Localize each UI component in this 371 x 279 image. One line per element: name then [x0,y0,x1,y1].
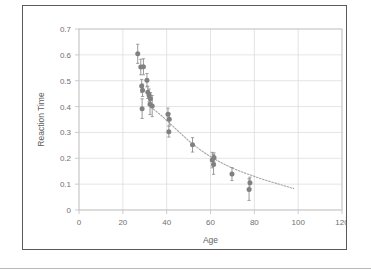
y-tick-label-5: 0.5 [60,77,72,86]
data-point-2 [141,64,146,69]
y-tick-label-6: 0.6 [60,51,72,60]
x-axis-title: Age [203,235,218,245]
page-bottom-rule [0,268,371,269]
y-tick-label-0: 0 [67,206,72,215]
x-tick-label-2: 40 [162,218,171,227]
x-tick-label-1: 20 [118,218,127,227]
data-point-0 [135,51,140,56]
y-tick-label-3: 0.3 [60,128,72,137]
y-tick-label-7: 0.7 [60,25,72,34]
trendline-path [154,109,294,188]
data-point-4 [140,88,145,93]
data-point-17 [212,155,217,160]
y-tick-label-1: 0.1 [60,180,72,189]
data-point-5 [140,106,145,111]
y-tick-label-4: 0.4 [60,103,72,112]
data-point-11 [150,104,155,109]
x-tick-label-6: 120 [335,218,346,227]
data-point-20 [247,180,252,185]
x-tick-label-4: 80 [250,218,259,227]
chart-gridlines [79,29,342,210]
reaction-time-vs-age-chart: 020406080100120 00.10.20.30.40.50.60.7 A… [23,6,346,249]
chart-y-tick-labels: 00.10.20.30.40.50.60.7 [60,25,79,215]
data-point-9 [148,96,153,101]
data-point-19 [229,172,234,177]
x-tick-label-3: 60 [206,218,215,227]
figure-frame: 020406080100120 00.10.20.30.40.50.60.7 A… [22,5,347,250]
chart-errorbars [136,44,251,200]
data-point-14 [166,129,171,134]
chart-trendline [154,109,294,188]
x-tick-label-5: 100 [291,218,305,227]
data-point-12 [165,112,170,117]
y-tick-label-2: 0.2 [60,154,72,163]
chart-data-points [135,51,252,192]
data-point-15 [190,142,195,147]
data-point-13 [167,117,172,122]
data-point-6 [144,78,149,83]
data-point-21 [247,187,252,192]
y-axis-title: Reaction Time [36,92,46,147]
data-point-18 [211,162,216,167]
x-tick-label-0: 0 [77,218,82,227]
chart-x-tick-labels: 020406080100120 [77,210,346,227]
data-point-3 [139,83,144,88]
